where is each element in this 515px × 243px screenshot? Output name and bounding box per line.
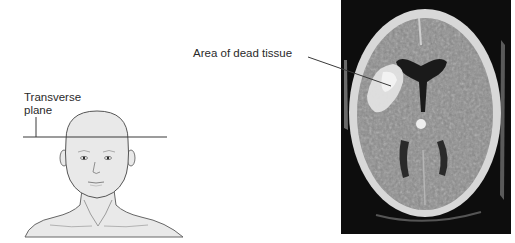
ct-artifact-left: [344, 60, 348, 130]
pupil-right: [107, 157, 109, 159]
transverse-plane-label: Transverse plane: [24, 91, 94, 117]
ct-scan-drawing: [341, 0, 511, 234]
head-outline: [66, 111, 129, 198]
calcification-spot: [416, 119, 426, 129]
plane-label-line-1: Transverse: [24, 91, 94, 104]
ct-scan-image: [341, 0, 511, 234]
brain-texture: [357, 18, 493, 210]
plane-label-line-2: plane: [24, 104, 94, 117]
dead-tissue-label: Area of dead tissue: [193, 47, 292, 60]
pupil-left: [83, 157, 85, 159]
